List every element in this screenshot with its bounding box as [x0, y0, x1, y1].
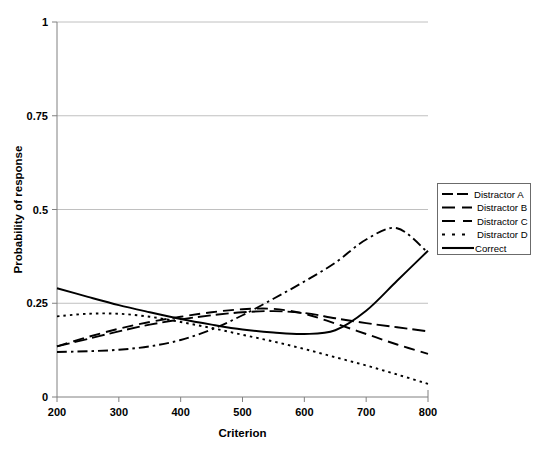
y-tick-marks [52, 22, 57, 397]
legend-label-distractor-d: Distractor D [477, 229, 528, 240]
series-line-distractor-d [57, 313, 428, 383]
legend-label-correct: Correct [475, 243, 507, 254]
legend-label-distractor-b: Distractor B [477, 202, 527, 213]
series-paths [57, 228, 428, 384]
x-tick-label-800: 800 [419, 406, 437, 418]
x-tick-label-300: 300 [110, 406, 128, 418]
y-tick-label-1: 1 [42, 16, 48, 28]
x-axis-title: Criterion [219, 427, 267, 439]
probability-of-response-line-chart: 1 0.75 0.5 0.25 0 200 300 400 500 600 70… [0, 0, 548, 458]
x-tick-label-500: 500 [233, 406, 251, 418]
x-tick-label-200: 200 [48, 406, 66, 418]
x-tick-label-700: 700 [357, 406, 375, 418]
y-tick-label-0: 0 [42, 391, 48, 403]
chart-figure: 1 0.75 0.5 0.25 0 200 300 400 500 600 70… [0, 0, 548, 458]
series-line-correct [57, 251, 428, 334]
y-axis-title: Probability of response [12, 146, 24, 274]
x-tick-label-600: 600 [295, 406, 313, 418]
x-tick-marks [57, 397, 428, 402]
gridlines [57, 22, 428, 303]
y-tick-label-075: 0.75 [27, 110, 48, 122]
legend[interactable]: Distractor A Distractor B Distractor C D… [438, 184, 531, 255]
y-tick-label-025: 0.25 [27, 297, 48, 309]
y-tick-label-05: 0.5 [33, 204, 48, 216]
x-tick-label-400: 400 [171, 406, 189, 418]
legend-label-distractor-c: Distractor C [477, 216, 528, 227]
legend-label-distractor-a: Distractor A [474, 189, 524, 200]
